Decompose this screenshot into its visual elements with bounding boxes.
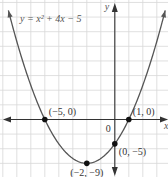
data-point [42, 117, 48, 123]
y-axis-arrow-down [112, 167, 118, 176]
parabola-chart: (−5, 0)(1, 0)(0, −5)(−2, −9) x y 0 y = x… [0, 0, 168, 177]
data-point-label: (1, 0) [133, 106, 155, 118]
data-point-label: (0, −5) [119, 146, 146, 158]
equation-label: y = x² + 4x − 5 [19, 13, 82, 24]
data-point [112, 141, 118, 147]
data-point-label: (−2, −9) [70, 167, 103, 177]
data-point-label: (−5, 0) [49, 106, 76, 118]
x-axis-arrow-left [3, 116, 11, 122]
data-point [84, 161, 90, 167]
y-axis-label: y [104, 1, 110, 12]
y-axis-arrow-up [112, 3, 118, 12]
origin-label: 0 [106, 123, 111, 134]
data-point [126, 117, 132, 123]
curve-arrow [8, 10, 13, 17]
curve-arrow [161, 10, 166, 17]
x-axis-label: x [163, 120, 168, 131]
